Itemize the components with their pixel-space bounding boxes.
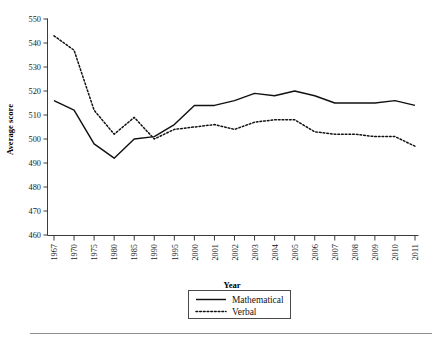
y-axis-title: Average score xyxy=(5,104,15,155)
series-line-verbal xyxy=(54,36,415,146)
x-tick-label: 2009 xyxy=(371,244,380,261)
y-axis-tick-labels: 460470480490500510520530540550 xyxy=(29,15,41,240)
x-tick-label: 2005 xyxy=(291,244,300,261)
y-tick-label: 490 xyxy=(29,159,41,168)
x-tick-label: 2004 xyxy=(271,243,280,260)
y-tick-label: 510 xyxy=(29,111,41,120)
y-tick-label: 480 xyxy=(29,183,41,192)
x-tick-label: 2006 xyxy=(311,244,320,261)
x-tick-label: 2008 xyxy=(351,244,360,261)
x-axis-ticks xyxy=(54,236,415,241)
y-tick-label: 520 xyxy=(29,87,41,96)
chart-figure: 460470480490500510520530540550 196719701… xyxy=(0,0,446,342)
line-chart-svg: 460470480490500510520530540550 196719701… xyxy=(0,0,446,342)
x-tick-label: 2003 xyxy=(251,244,260,261)
legend-label-verbal: Verbal xyxy=(232,307,257,317)
y-tick-label: 550 xyxy=(29,15,41,24)
y-tick-label: 530 xyxy=(29,63,41,72)
x-tick-label: 2001 xyxy=(211,244,220,261)
x-tick-label: 1975 xyxy=(90,244,99,261)
y-tick-label: 500 xyxy=(29,135,41,144)
y-tick-label: 460 xyxy=(29,231,41,240)
x-tick-label: 1967 xyxy=(50,244,59,261)
x-tick-label: 2007 xyxy=(331,244,340,261)
series-line-mathematical xyxy=(54,91,415,158)
y-tick-label: 470 xyxy=(29,207,41,216)
chart-legend: Mathematical Verbal xyxy=(189,291,291,319)
x-axis-tick-labels: 1967197019751980198519901995200020012002… xyxy=(50,243,420,260)
x-tick-label: 1985 xyxy=(130,244,139,261)
x-tick-label: 2010 xyxy=(391,244,400,261)
x-tick-label: 1970 xyxy=(70,244,79,261)
x-tick-label: 2011 xyxy=(411,244,420,260)
x-tick-label: 2000 xyxy=(191,244,200,261)
x-tick-label: 1995 xyxy=(171,244,180,261)
x-tick-label: 1980 xyxy=(110,244,119,261)
x-tick-label: 2002 xyxy=(231,244,240,261)
x-tick-label: 1990 xyxy=(150,244,159,261)
y-tick-label: 540 xyxy=(29,39,41,48)
x-axis-title: Year xyxy=(223,280,240,290)
legend-label-mathematical: Mathematical xyxy=(232,295,284,305)
y-axis-ticks xyxy=(44,19,48,235)
